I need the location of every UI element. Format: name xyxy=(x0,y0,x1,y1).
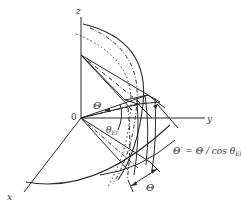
beam-upper-4 xyxy=(81,55,132,110)
formula-label: Θ′ = Θ / cos θEl xyxy=(173,146,241,157)
theta-lower-ext-1 xyxy=(128,180,133,192)
theta-prime-leader xyxy=(157,104,178,128)
meridian-4 xyxy=(152,98,156,170)
meridian-1 xyxy=(145,95,148,165)
origin-label: 0 xyxy=(71,112,77,122)
x-axis-label: x xyxy=(7,192,12,202)
beam-upper-3 xyxy=(81,55,140,103)
y-axis-label: y xyxy=(206,114,213,124)
theta-el-arc xyxy=(118,104,122,130)
theta-el-label: θEl xyxy=(106,125,118,136)
theta-prime-ext-2 xyxy=(138,104,152,118)
diagram-canvas: z y x 0 Θ θEl Θ Θ′ = Θ / cos θEl xyxy=(0,0,241,207)
theta-upper-label: Θ xyxy=(93,100,101,111)
arrowhead-theta-lower-1 xyxy=(131,181,137,186)
meridian-2 xyxy=(134,100,138,175)
upper-polygon xyxy=(125,95,160,104)
x-axis xyxy=(24,118,81,192)
z-axis-label: z xyxy=(75,6,81,16)
theta-lower-label: Θ xyxy=(146,182,154,193)
